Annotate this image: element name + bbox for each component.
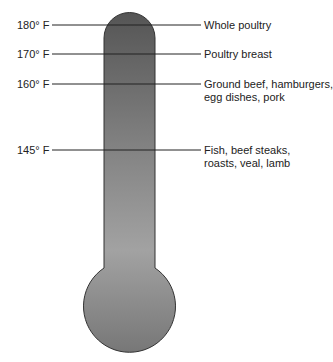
food-label-line: Whole poultry [204,19,271,32]
food-label-whole-poultry: Whole poultry [204,19,271,32]
food-label-line: Fish, beef steaks, [204,144,290,157]
food-label-ground-beef: Ground beef, hamburgers, egg dishes, por… [204,78,333,104]
food-label-poultry-breast: Poultry breast [204,48,272,61]
food-label-line: Ground beef, hamburgers, [204,78,333,91]
food-label-fish-beef: Fish, beef steaks, roasts, veal, lamb [204,144,290,170]
food-label-line: roasts, veal, lamb [204,157,290,170]
food-label-line: egg dishes, pork [204,91,333,104]
temp-label-145: 145° F [17,144,50,157]
temp-label-160: 160° F [17,78,50,91]
temp-label-170: 170° F [17,48,50,61]
temp-label-180: 180° F [17,19,50,32]
food-label-line: Poultry breast [204,48,272,61]
